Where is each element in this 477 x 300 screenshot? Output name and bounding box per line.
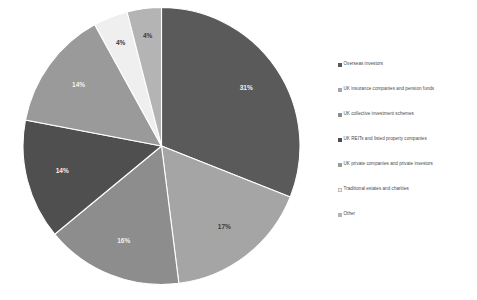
cropped-caption-bleed: · · · · · xyxy=(0,0,300,4)
pie-chart: 31%17%16%14%14%4%4% xyxy=(22,8,301,285)
legend-item[interactable]: Other xyxy=(338,212,474,237)
legend-item-label: Overseas investors xyxy=(344,62,384,67)
legend-swatch-icon xyxy=(338,113,342,117)
legend-item-label: UK REITs and listed property companies xyxy=(344,137,427,142)
legend-item-label: UK collective investment schemes xyxy=(344,112,414,117)
pie-data-label: 14% xyxy=(56,167,69,174)
pie-data-label: 16% xyxy=(117,237,130,244)
legend-swatch-icon xyxy=(338,63,342,67)
legend-swatch-icon xyxy=(338,213,342,217)
chart-canvas: · · · · · 31%17%16%14%14%4%4% Overseas i… xyxy=(0,0,477,300)
pie-data-label: 31% xyxy=(240,84,253,91)
pie-data-label: 4% xyxy=(116,39,126,46)
legend-item-label: Traditional estates and charities xyxy=(344,187,409,192)
legend-swatch-icon xyxy=(338,88,342,92)
pie-data-label: 14% xyxy=(72,81,85,88)
legend-item-label: UK private companies and private investo… xyxy=(344,162,433,167)
legend-item[interactable]: UK private companies and private investo… xyxy=(338,162,474,187)
chart-legend: Overseas investorsUK insurance companies… xyxy=(338,62,474,237)
legend-item[interactable]: UK REITs and listed property companies xyxy=(338,137,474,162)
legend-item[interactable]: Traditional estates and charities xyxy=(338,187,474,212)
pie-data-label: 17% xyxy=(218,223,231,230)
pie-chart-svg: 31%17%16%14%14%4%4% xyxy=(22,8,301,285)
legend-item[interactable]: UK collective investment schemes xyxy=(338,112,474,137)
legend-item-label: Other xyxy=(344,212,356,217)
legend-swatch-icon xyxy=(338,138,342,142)
legend-item-label: UK insurance companies and pension funds xyxy=(344,87,435,92)
legend-swatch-icon xyxy=(338,188,342,192)
legend-swatch-icon xyxy=(338,163,342,167)
pie-slice-group xyxy=(23,8,300,285)
legend-item[interactable]: UK insurance companies and pension funds xyxy=(338,87,474,112)
legend-item[interactable]: Overseas investors xyxy=(338,62,474,87)
pie-data-label: 4% xyxy=(143,32,153,39)
